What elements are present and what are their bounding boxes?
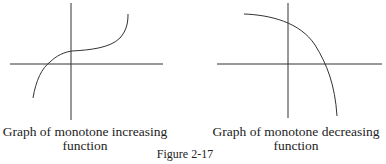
caption-line-2: function [208,139,384,153]
increasing-curve [33,14,128,98]
panel-increasing [10,3,163,120]
decreasing-curve [244,14,337,116]
caption-line-1: Graph of monotone increasing [0,125,170,139]
caption-decreasing: Graph of monotone decreasing function [208,125,384,153]
panel-decreasing [217,3,382,118]
figure-title: Figure 2-17 [140,147,230,162]
caption-line-1: Graph of monotone decreasing [208,125,384,139]
